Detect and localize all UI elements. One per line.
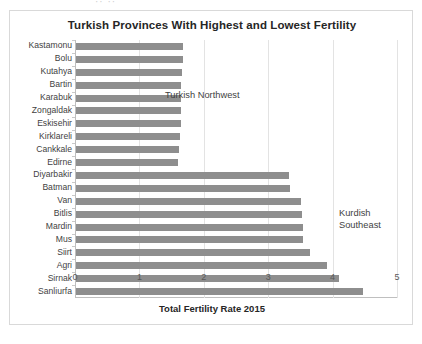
y-tick-mark bbox=[72, 259, 75, 260]
bar-row bbox=[76, 118, 181, 130]
y-tick-label: Bitlis bbox=[10, 208, 72, 218]
bar[interactable] bbox=[76, 159, 178, 166]
bar-row bbox=[76, 208, 302, 220]
y-axis-category-labels: KastamonuBoluKutahyaBartinKarabukZongald… bbox=[10, 40, 72, 298]
y-tick-label: Siirt bbox=[10, 247, 72, 257]
x-tick-label: 5 bbox=[387, 272, 407, 282]
x-axis-title: Total Fertility Rate 2015 bbox=[10, 303, 414, 314]
bar-row bbox=[76, 53, 183, 65]
annotation-turkish-northwest: Turkish Northwest bbox=[165, 89, 240, 101]
y-tick-label: Bolu bbox=[10, 53, 72, 63]
chart-container: Turkish Provinces With Highest and Lowes… bbox=[9, 10, 413, 325]
bar-row bbox=[76, 144, 179, 156]
y-tick-mark bbox=[72, 66, 75, 67]
bar[interactable] bbox=[76, 249, 310, 256]
y-tick-mark bbox=[72, 53, 75, 54]
x-tick-label: 2 bbox=[194, 272, 214, 282]
y-tick-label: Van bbox=[10, 195, 72, 205]
y-tick-label: Bartin bbox=[10, 79, 72, 89]
y-tick-mark bbox=[72, 92, 75, 93]
y-tick-label: Edirne bbox=[10, 157, 72, 167]
y-tick-mark bbox=[72, 182, 75, 183]
bar[interactable] bbox=[76, 43, 183, 50]
bar[interactable] bbox=[76, 172, 289, 179]
cropped-page-text-above-chart: ·· ·· bbox=[95, 0, 295, 8]
y-tick-mark bbox=[72, 143, 75, 144]
bar-row bbox=[76, 260, 327, 272]
x-tick-label: 3 bbox=[258, 272, 278, 282]
x-gridline bbox=[333, 40, 334, 298]
y-tick-label: Sanliurfa bbox=[10, 286, 72, 296]
bar-row bbox=[76, 169, 289, 181]
y-tick-mark bbox=[72, 246, 75, 247]
y-tick-label: Mardin bbox=[10, 221, 72, 231]
bar-row bbox=[76, 157, 178, 169]
y-tick-label: Eskisehir bbox=[10, 118, 72, 128]
y-tick-mark bbox=[72, 79, 75, 80]
bar[interactable] bbox=[76, 224, 303, 231]
plot-area bbox=[75, 40, 397, 298]
x-tick-label: 1 bbox=[129, 272, 149, 282]
x-gridline bbox=[397, 40, 398, 298]
bar-row bbox=[76, 221, 303, 233]
bar-row bbox=[76, 40, 183, 52]
y-tick-mark bbox=[72, 195, 75, 196]
bar-row bbox=[76, 66, 182, 78]
bar[interactable] bbox=[76, 133, 180, 140]
bar[interactable] bbox=[76, 120, 181, 127]
bar[interactable] bbox=[76, 288, 363, 295]
y-tick-label: Kirklareli bbox=[10, 131, 72, 141]
bar[interactable] bbox=[76, 198, 301, 205]
bar-row bbox=[76, 247, 310, 259]
y-tick-label: Karabuk bbox=[10, 92, 72, 102]
bar[interactable] bbox=[76, 82, 181, 89]
bar-row bbox=[76, 182, 290, 194]
y-tick-label: Diyarbakir bbox=[10, 169, 72, 179]
bar[interactable] bbox=[76, 185, 290, 192]
bar[interactable] bbox=[76, 69, 182, 76]
y-tick-label: Cankkale bbox=[10, 144, 72, 154]
bar-row bbox=[76, 234, 303, 246]
y-tick-mark bbox=[72, 117, 75, 118]
bar-row bbox=[76, 105, 181, 117]
y-tick-mark bbox=[72, 208, 75, 209]
y-tick-mark bbox=[72, 156, 75, 157]
x-tick-label: 0 bbox=[65, 272, 85, 282]
bar-row bbox=[76, 131, 180, 143]
bar[interactable] bbox=[76, 56, 183, 63]
y-tick-label: Agri bbox=[10, 260, 72, 270]
y-tick-label: Sirnak bbox=[10, 273, 72, 283]
bar[interactable] bbox=[76, 107, 181, 114]
y-tick-mark bbox=[72, 285, 75, 286]
y-tick-mark bbox=[72, 169, 75, 170]
x-tick-label: 4 bbox=[323, 272, 343, 282]
y-tick-mark bbox=[72, 40, 75, 41]
y-tick-label: Mus bbox=[10, 234, 72, 244]
y-tick-mark bbox=[72, 105, 75, 106]
y-tick-mark bbox=[72, 234, 75, 235]
bar[interactable] bbox=[76, 236, 303, 243]
y-tick-label: Batman bbox=[10, 182, 72, 192]
bar[interactable] bbox=[76, 211, 302, 218]
bar[interactable] bbox=[76, 262, 327, 269]
y-tick-mark bbox=[72, 130, 75, 131]
y-tick-label: Zongaldak bbox=[10, 105, 72, 115]
y-tick-label: Kastamonu bbox=[10, 40, 72, 50]
chart-title: Turkish Provinces With Highest and Lowes… bbox=[10, 19, 414, 31]
y-tick-mark bbox=[72, 221, 75, 222]
annotation-kurdish-southeast: Kurdish Southeast bbox=[339, 207, 381, 231]
bar[interactable] bbox=[76, 146, 179, 153]
y-tick-label: Kutahya bbox=[10, 66, 72, 76]
bar-row bbox=[76, 286, 363, 298]
bar-row bbox=[76, 195, 301, 207]
